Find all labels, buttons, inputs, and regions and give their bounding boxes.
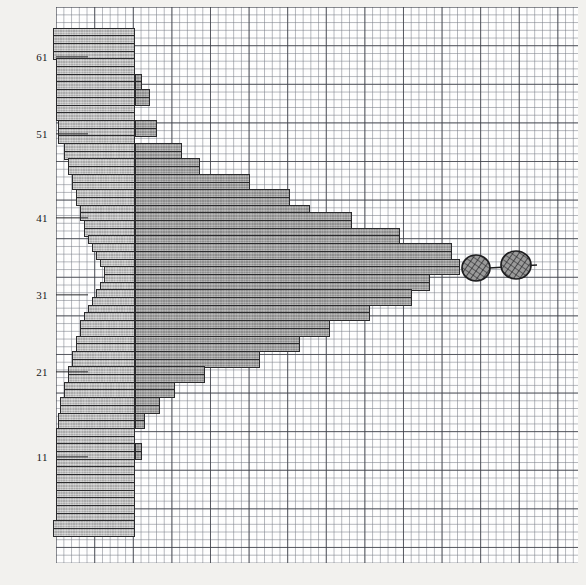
y-axis-tick-label: 41 (36, 212, 48, 224)
bar-row (135, 97, 150, 106)
y-axis-tick-line (56, 456, 88, 457)
y-axis: 615141312111 (0, 0, 56, 585)
bar-row-core (53, 528, 135, 537)
bar-row (135, 451, 142, 460)
y-axis-tick-label: 11 (37, 451, 48, 463)
y-axis-tick-label: 51 (36, 128, 48, 140)
y-axis-tick-line (56, 294, 88, 295)
y-axis-tick-line (56, 133, 88, 134)
bar-series (56, 7, 578, 563)
y-axis-tick-label: 31 (36, 289, 48, 301)
bar-row (135, 420, 145, 429)
y-axis-tick-line (56, 217, 88, 218)
y-axis-tick-line (56, 371, 88, 372)
y-axis-tick-label: 21 (36, 366, 48, 378)
y-axis-tick-label: 61 (36, 51, 48, 63)
y-axis-tick-line (56, 56, 88, 57)
bar-row (135, 128, 157, 137)
plot-area (56, 7, 578, 563)
figure-page: 615141312111 (0, 0, 586, 585)
